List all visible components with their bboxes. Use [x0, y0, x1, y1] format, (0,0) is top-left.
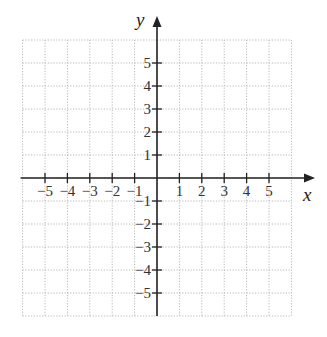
x-tick-label: −4: [59, 183, 75, 199]
x-axis-arrow-icon: [304, 174, 315, 183]
y-axis-arrow-icon: [153, 16, 162, 27]
x-tick-label: 4: [243, 183, 251, 199]
y-tick-label: 5: [144, 55, 152, 71]
y-tick-label: −3: [135, 239, 151, 255]
x-tick-label: 5: [265, 183, 273, 199]
y-tick-label: −5: [135, 285, 151, 301]
y-tick-label: 1: [144, 147, 152, 163]
y-axis-label: y: [134, 9, 145, 30]
x-tick-label: −5: [37, 183, 53, 199]
y-tick-label: −2: [135, 216, 151, 232]
coordinate-plane: −5−4−3−2−112345 −5−4−3−2−112345 x y: [0, 0, 327, 337]
y-tick-label: 2: [144, 124, 152, 140]
x-tick-label: −2: [104, 183, 120, 199]
x-tick-label: 2: [198, 183, 206, 199]
x-tick-label: −3: [82, 183, 98, 199]
x-axis-label: x: [302, 184, 312, 205]
y-tick-label: 3: [144, 101, 152, 117]
x-axis-ticks: −5−4−3−2−112345: [37, 173, 273, 199]
y-tick-label: −1: [135, 193, 151, 209]
x-tick-label: 1: [176, 183, 184, 199]
y-tick-label: −4: [135, 262, 151, 278]
y-tick-label: 4: [144, 78, 152, 94]
x-tick-label: 3: [220, 183, 228, 199]
axes: [21, 16, 315, 316]
